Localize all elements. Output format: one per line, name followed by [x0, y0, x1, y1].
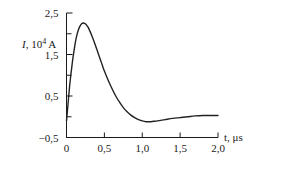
x-tick-label: 1,0 — [135, 142, 149, 154]
y-axis-title: I, 104 A — [21, 37, 56, 50]
x-tick-label: 0,5 — [98, 142, 112, 154]
x-axis-title-rest: , μs — [227, 131, 243, 143]
y-axis-title-rest: , 10 — [26, 38, 43, 50]
y-tick-label: 1,5 — [45, 49, 59, 61]
current-pulse-plot: −0,50,51,52,5 00,51,01,52,0 I, 104 A t, … — [0, 0, 286, 173]
y-axis-ticks — [67, 13, 73, 138]
chart-figure: −0,50,51,52,5 00,51,01,52,0 I, 104 A t, … — [0, 0, 286, 173]
data-series-line — [67, 23, 219, 122]
x-tick-label: 0 — [64, 142, 70, 154]
y-tick-label: −0,5 — [39, 132, 59, 144]
y-tick-label: 0,5 — [45, 90, 59, 102]
x-tick-label: 2,0 — [211, 142, 225, 154]
y-axis-title-unit: A — [48, 38, 56, 50]
x-tick-label: 1,5 — [173, 142, 187, 154]
x-axis-ticks — [67, 133, 219, 138]
y-axis-tick-labels: −0,50,51,52,5 — [39, 7, 59, 144]
x-axis-title: t, μs — [224, 131, 243, 143]
x-axis-tick-labels: 00,51,01,52,0 — [64, 142, 226, 154]
y-tick-label: 2,5 — [45, 7, 59, 19]
